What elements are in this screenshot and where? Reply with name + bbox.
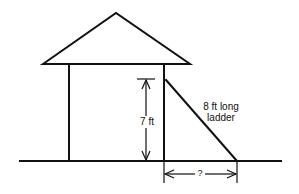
ladder-label-line1: 8 ft long (198, 101, 244, 112)
house-ladder-diagram (0, 0, 299, 194)
height-label: 7 ft (140, 116, 154, 127)
ladder-label-line2: ladder (198, 112, 244, 123)
unknown-distance-label: ? (195, 168, 205, 179)
roof (43, 13, 190, 64)
